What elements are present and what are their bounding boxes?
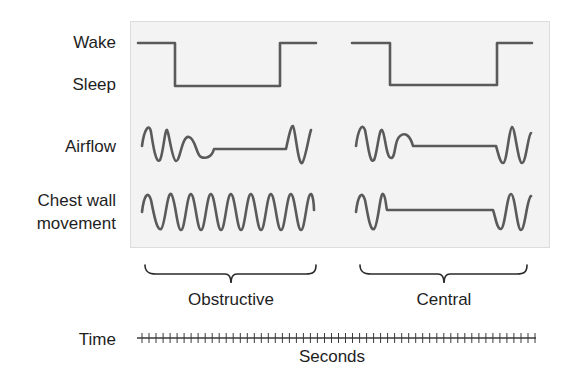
chest-wall-trace-obstructive <box>142 194 314 230</box>
brace-obstructive <box>145 265 316 283</box>
apnea-diagram <box>0 0 568 383</box>
chest-wall-trace-central <box>356 194 531 230</box>
airflow-trace-central <box>356 127 531 163</box>
group-label-central: Central <box>384 290 504 310</box>
time-axis-unit-label: Seconds <box>272 347 392 367</box>
sleep-state-trace-obstructive <box>138 43 316 86</box>
group-label-obstructive: Obstructive <box>171 290 291 310</box>
sleep-state-trace-central <box>352 43 532 85</box>
brace-central <box>360 265 527 283</box>
airflow-trace-obstructive <box>142 126 311 163</box>
